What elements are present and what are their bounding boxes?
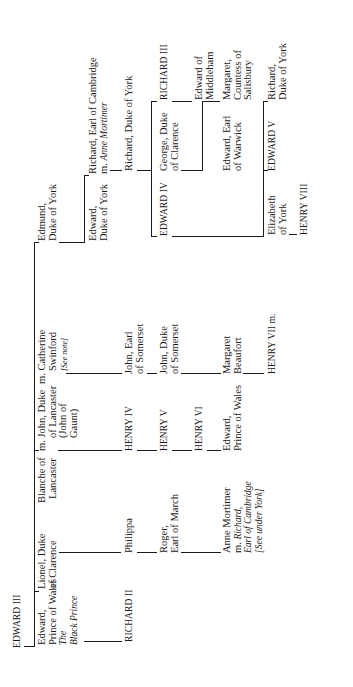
node-blanche: Blanche of Lancaster [37, 457, 58, 503]
connector [84, 641, 122, 642]
label: Duke of York [99, 184, 110, 241]
node-henry-v: HENRY V [159, 409, 170, 451]
label: Margaret, [222, 50, 233, 100]
label: Gaunt) [69, 386, 80, 451]
node-john-duke-somerset: John, Duke of Somerset [159, 324, 180, 374]
node-margaret-salisbury: Margaret, Countess of Salisbury [222, 50, 254, 100]
label: Lionel, Duke [37, 534, 48, 589]
label: Middleham [205, 52, 216, 100]
label: of Somerset [135, 324, 146, 374]
connector [202, 101, 220, 102]
connector [84, 175, 89, 176]
label: Anne Mortimer [99, 102, 109, 160]
connector [151, 101, 157, 102]
label: Richard, Earl of Cambridge [88, 57, 99, 174]
node-edward-v: EDWARD V [267, 121, 278, 172]
node-george-clarence: George, Duke of Clarence [159, 112, 180, 171]
connector [84, 176, 85, 243]
node-philippa: Philippa [124, 518, 135, 553]
connector [137, 552, 157, 553]
connector [151, 101, 152, 237]
connector [289, 234, 297, 235]
connector [110, 170, 122, 171]
label: of Somerset [170, 324, 181, 374]
label: Edward, [222, 385, 233, 451]
label: Swinford [48, 330, 59, 384]
node-margaret-beaufort: Margaret Beaufort [222, 336, 243, 374]
connector [202, 101, 203, 171]
connector [137, 450, 157, 451]
node-catherine-swinford: m. Catherine Swinford [See note] [37, 330, 71, 384]
genealogy-tree: EDWARD III Edward, Prince of Wales The B… [0, 0, 353, 687]
label: m. Catherine [37, 330, 48, 384]
connector [172, 101, 192, 102]
node-edmund: Edmund, Duke of York [37, 184, 58, 241]
connector [147, 373, 157, 374]
node-lionel: Lionel, Duke of Clarence [37, 534, 58, 589]
label: Salisbury [243, 50, 254, 100]
connector [181, 552, 221, 553]
label: of Clarence [48, 534, 59, 589]
node-edward-duke-york: Edward, Duke of York [88, 184, 109, 241]
node-elizabeth-york: Elizabeth of York [267, 195, 288, 235]
connector [59, 242, 85, 243]
label: Earl of March [170, 494, 181, 553]
label: Edward, [88, 184, 99, 241]
node-john-of-gaunt: m. John, Duke of Lancaster (John of Gaun… [37, 386, 79, 451]
node-roger-earl-march: Roger, Earl of March [159, 494, 180, 553]
label: Richard, [233, 507, 243, 540]
label: Lancaster [48, 457, 59, 503]
label: m. [232, 540, 243, 553]
label: Richard, [267, 43, 278, 100]
label: Earl of Cambridge [243, 481, 254, 553]
label: George, Duke [159, 112, 170, 171]
connector [59, 552, 121, 553]
connector [151, 236, 157, 237]
label: Duke of York [48, 184, 59, 241]
connector [181, 170, 203, 171]
node-richard-duke-york-2: Richard, Duke of York [267, 43, 288, 100]
label: of Warwick [233, 116, 244, 171]
node-edward-iii: EDWARD III [12, 594, 23, 648]
connector [172, 450, 192, 451]
label: Edward, Earl [222, 116, 233, 171]
connector [181, 373, 221, 374]
label: Prince of Wales [233, 385, 244, 451]
label: Blanche of [37, 457, 48, 503]
label: John, Duke [159, 324, 170, 374]
label: [See note] [60, 330, 71, 384]
label: of Clarence [170, 112, 181, 171]
node-richard-duke-york: Richard, Duke of York [124, 76, 135, 171]
connector [263, 101, 268, 102]
node-anne-mortimer: Anne Mortimer m. Richard, Earl of Cambri… [222, 481, 264, 553]
node-richard-iii: RICHARD III [159, 44, 170, 100]
connector [137, 170, 152, 171]
label: Duke of York [278, 43, 289, 100]
connector [172, 236, 264, 237]
label: The [58, 579, 69, 645]
node-henry-viii: HENRY VIII [299, 184, 310, 235]
label: Edward of [194, 52, 205, 100]
node-richard-earl-cambridge: Richard, Earl of Cambridge m. Anne Morti… [88, 57, 109, 174]
label: m. [98, 161, 109, 174]
label: m. John, Duke [37, 386, 48, 451]
label: [See under York] [254, 481, 265, 553]
connector [207, 450, 221, 451]
label: Elizabeth [267, 195, 278, 235]
node-henry-iv: HENRY IV [124, 406, 135, 451]
connector [243, 373, 264, 374]
label: Black Prince [69, 579, 80, 645]
connector [34, 242, 39, 243]
label: of York [278, 195, 289, 235]
node-edward-middleham: Edward of Middleham [194, 52, 215, 100]
node-edward-earl-warwick: Edward, Earl of Warwick [222, 116, 243, 171]
label: Margaret [222, 336, 233, 374]
label: Edmund, [37, 184, 48, 241]
label: Roger, [159, 494, 170, 553]
label: (John of [58, 386, 69, 451]
node-edward-prince-of-wales: Edward, Prince of Wales [222, 385, 243, 451]
label: John, Earl [124, 324, 135, 374]
connector [58, 450, 122, 451]
connector [66, 373, 122, 374]
node-henry-vi: HENRY VI [194, 406, 205, 451]
